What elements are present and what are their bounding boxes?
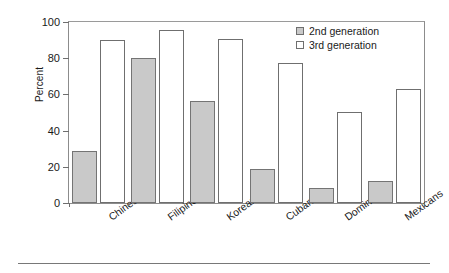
bar-chinese-2nd-generation [72, 151, 97, 203]
bar-filipinos-3rd-generation [159, 30, 184, 203]
y-axis-tick-label: 40 [48, 125, 60, 137]
x-axis-tick-mark [247, 203, 248, 207]
bar-koreans-2nd-generation [190, 101, 215, 203]
y-axis-tick-label: 80 [48, 52, 60, 64]
legend-entry-3rd-generation: 3rd generation [296, 38, 379, 52]
chart-legend: 2nd generation 3rd generation [296, 24, 379, 52]
x-axis-tick-mark [365, 203, 366, 207]
x-axis-tick-mark [187, 203, 188, 207]
bar-dominicans-3rd-generation [337, 112, 362, 203]
x-axis-tick-mark [128, 203, 129, 207]
legend-entry-2nd-generation: 2nd generation [296, 24, 379, 38]
footer-divider [18, 263, 430, 264]
y-axis-tick-mark [63, 167, 69, 168]
x-axis-tick-mark [69, 203, 70, 207]
y-axis-tick-mark [63, 131, 69, 132]
y-axis-tick-label: 20 [48, 161, 60, 173]
bar-mexicans-2nd-generation [368, 181, 393, 203]
y-axis-tick-label: 100 [42, 16, 60, 28]
x-axis-tick-mark [424, 203, 425, 207]
y-axis-tick-mark [63, 58, 69, 59]
bar-cubans-3rd-generation [278, 63, 303, 203]
y-axis-tick-mark [63, 22, 69, 23]
legend-label: 3rd generation [309, 38, 377, 52]
bar-cubans-2nd-generation [250, 169, 275, 203]
bar-chart-figure: Percent 020406080100ChineseFilipinosKore… [0, 0, 449, 273]
gray-filled-square-icon [296, 27, 304, 35]
x-axis-tick-mark [306, 203, 307, 207]
y-axis-tick-mark [63, 94, 69, 95]
bar-dominicans-2nd-generation [309, 188, 334, 203]
y-axis-title: Percent [34, 50, 45, 120]
bar-mexicans-3rd-generation [396, 89, 421, 203]
bar-chinese-3rd-generation [100, 40, 125, 203]
white-outline-square-icon [296, 41, 304, 49]
bar-filipinos-2nd-generation [131, 58, 156, 203]
bar-koreans-3rd-generation [218, 39, 243, 203]
legend-label: 2nd generation [309, 24, 379, 38]
y-axis-tick-label: 60 [48, 88, 60, 100]
y-axis-tick-label: 0 [54, 197, 60, 209]
